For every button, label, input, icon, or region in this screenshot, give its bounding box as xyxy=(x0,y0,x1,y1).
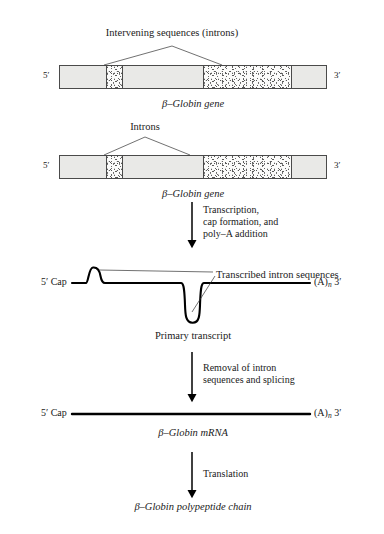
primary-transcript-strand xyxy=(72,267,310,322)
leader-line-intervening-1 xyxy=(104,46,172,65)
leader-line-intervening-2 xyxy=(172,46,222,65)
diagram-line-overlay xyxy=(0,0,384,534)
leader-line-transcribed-intron-large xyxy=(192,276,215,312)
leader-line-introns-2 xyxy=(145,137,190,155)
beta-globin-expression-figure: Intervening sequences (introns) 5′ 3′ β–… xyxy=(0,0,384,534)
leader-line-transcribed-intron-small xyxy=(99,270,213,272)
leader-line-introns-1 xyxy=(104,137,145,155)
